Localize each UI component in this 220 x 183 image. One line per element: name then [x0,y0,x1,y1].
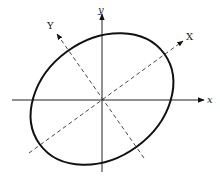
rotated-y-axis [57,34,144,158]
rotated-x-axis [29,41,183,153]
rotated-y-axis-label: Y [46,20,54,31]
ellipse-diagram: x y X Y [0,0,220,183]
y-axis-label: y [97,4,104,15]
rotated-x-axis-label: X [186,31,194,42]
x-axis-label: x [207,94,213,105]
